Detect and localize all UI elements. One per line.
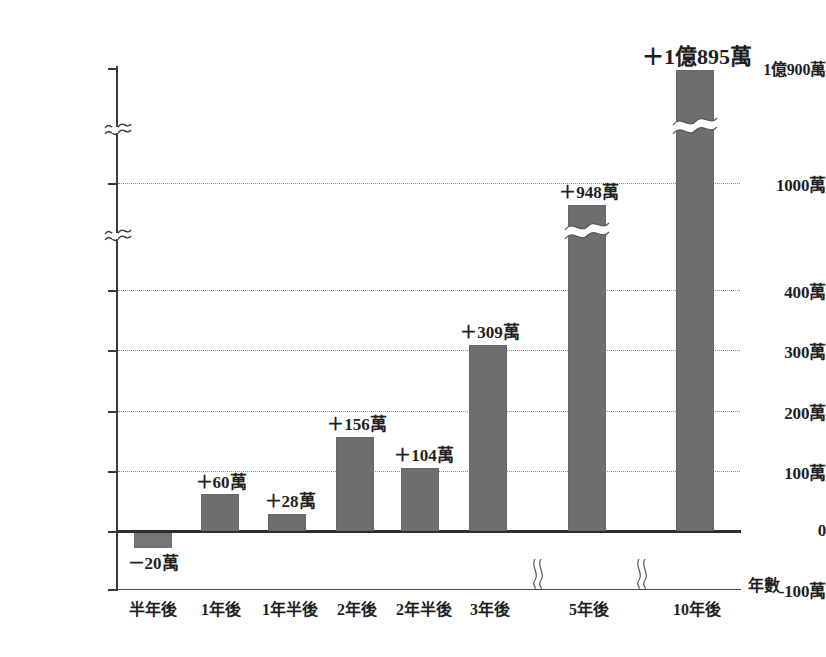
y-tick-100man (108, 471, 118, 473)
y-label-1000man: 1000萬 (722, 171, 826, 196)
x-axis-break-wave-1 (526, 558, 548, 590)
category-label-2年後: 2年後 (337, 596, 377, 620)
y-axis-line (116, 66, 118, 591)
x-axis-bottom-line (116, 589, 741, 590)
gridline-200man (118, 411, 740, 412)
y-label-300man: 300萬 (722, 338, 826, 363)
x-axis-break-wave-2 (630, 558, 652, 590)
gridline-1000man (118, 183, 740, 184)
category-label-3年後: 3年後 (470, 596, 510, 620)
category-label-1年後: 1年後 (201, 596, 241, 620)
bar-2年半後 (401, 468, 439, 531)
gridline-300man (118, 350, 740, 351)
y-axis-break-wave-lower (104, 224, 132, 250)
x-axis-title: 年數 (748, 572, 780, 596)
bar-chart: 1億900萬 1000萬 400萬 300萬 200萬 100萬 0 -100萬 (0, 0, 826, 657)
gridline-400man (118, 290, 740, 291)
value-label-1年半後: ＋28萬 (265, 487, 316, 512)
y-label-zero: 0 (722, 521, 826, 541)
y-tick-400man (108, 290, 118, 292)
bar-10年後 (676, 70, 714, 531)
value-label-1年後: ＋60萬 (196, 468, 247, 493)
category-label-5年後: 5年後 (569, 596, 609, 620)
y-tick-200man (108, 411, 118, 413)
value-label-半年後: －20萬 (128, 549, 179, 574)
bar-1年半後 (268, 514, 306, 531)
value-label-3年後: ＋309萬 (460, 318, 520, 343)
bar-3年後 (469, 345, 507, 531)
plot-area: 1億900萬 1000萬 400萬 300萬 200萬 100萬 0 -100萬 (0, 0, 826, 657)
category-label-半年後: 半年後 (129, 596, 177, 620)
y-tick-1000man (108, 183, 118, 185)
y-tick-minus100man (108, 589, 118, 591)
category-label-1年半後: 1年半後 (262, 596, 318, 620)
category-label-10年後: 10年後 (673, 596, 721, 620)
bar-2年後 (336, 437, 374, 531)
category-label-2年半後: 2年半後 (396, 596, 452, 620)
y-label-400man: 400萬 (722, 278, 826, 303)
bar-1年後 (201, 494, 239, 531)
value-label-2年後: ＋156萬 (327, 410, 387, 435)
y-label-200man: 200萬 (722, 399, 826, 424)
value-label-2年半後: ＋104萬 (394, 441, 454, 466)
y-label-100man: 100萬 (722, 459, 826, 484)
y-axis-break-wave-upper (104, 112, 132, 138)
bar-半年後 (134, 533, 172, 548)
y-tick-300man (108, 350, 118, 352)
value-label-5年後: ＋948萬 (559, 178, 619, 203)
y-tick-1oku900man (108, 68, 118, 70)
y-tick-zero (108, 531, 118, 533)
value-label-10年後: ＋1億895萬 (642, 38, 752, 70)
bar-5年後 (568, 205, 606, 531)
